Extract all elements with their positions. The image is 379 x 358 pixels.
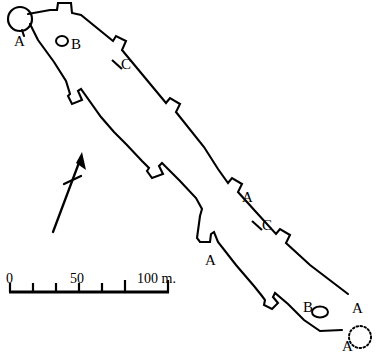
north-arrow-shaft xyxy=(53,160,80,232)
map-label-a-top-left: A xyxy=(14,34,25,49)
scale-label-100: 100 m. xyxy=(137,272,176,286)
map-label-b-bottom-right: B xyxy=(303,300,313,315)
map-label-a-mid-left: A xyxy=(205,253,216,268)
map-label-c-upper-wall: C xyxy=(121,57,131,72)
site-plan-drawing xyxy=(0,0,379,358)
map-label-c-mid-right: C xyxy=(262,218,272,233)
map-label-a-mid-right: A xyxy=(242,190,253,205)
site-plan-figure: A B C A C A B A A 0 50 100 m. xyxy=(0,0,379,358)
north-arrow xyxy=(53,152,86,232)
scale-label-0: 0 xyxy=(6,272,13,286)
map-label-b-top-left: B xyxy=(71,37,81,52)
tower-circle-b-top-left xyxy=(56,36,68,46)
map-label-a-bottom-lower: A xyxy=(342,339,353,354)
tower-circle-a-top-left xyxy=(8,7,32,31)
tower-circle-b-bottom-right xyxy=(312,307,328,318)
map-label-a-bottom-right: A xyxy=(352,301,363,316)
section-tick-c-mid-right xyxy=(252,221,262,230)
scale-label-50: 50 xyxy=(70,272,84,286)
